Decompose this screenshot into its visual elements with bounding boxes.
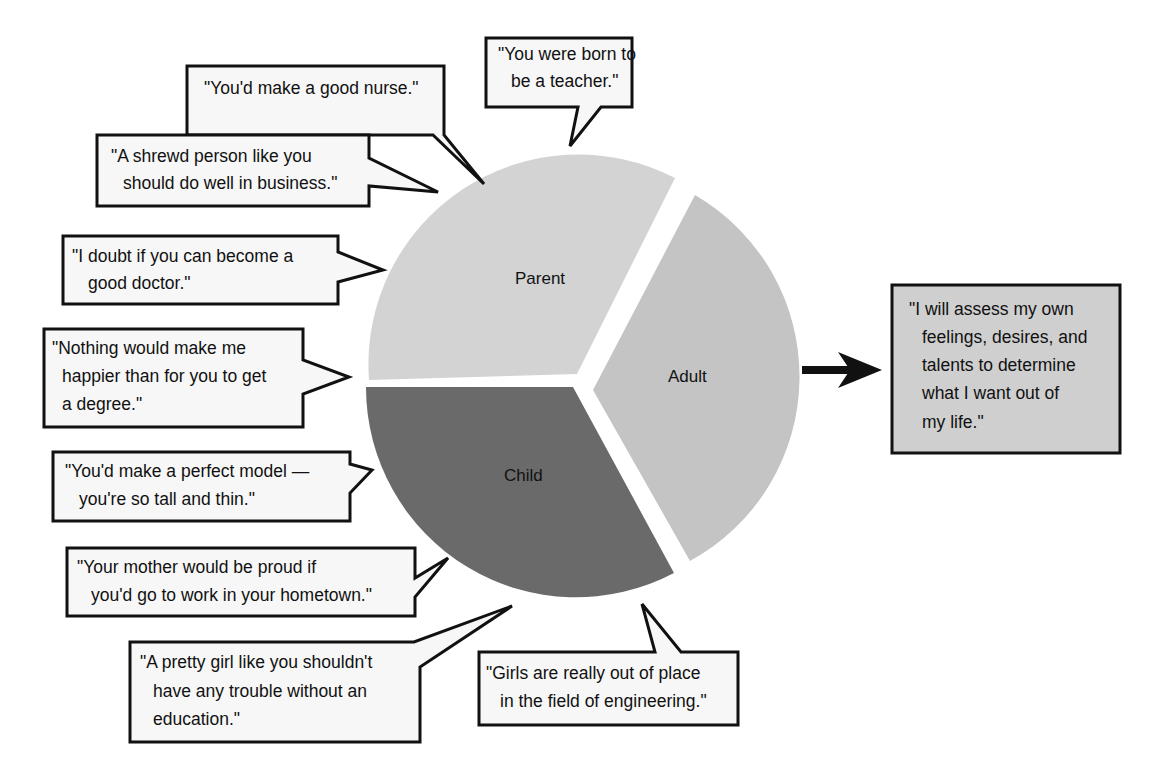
- speech-bubble-business: "A shrewd person like you should do well…: [97, 135, 438, 206]
- bubble-line: happier than for you to get: [62, 366, 266, 386]
- speech-bubble-education: "A pretty girl like you shouldn't have a…: [130, 606, 512, 742]
- output-line: my life.": [922, 412, 984, 432]
- bubble-line: a degree.": [62, 394, 142, 414]
- bubble-line: you're so tall and thin.": [79, 489, 255, 509]
- bubble-line: good doctor.": [88, 273, 191, 293]
- bubble-line: you'd go to work in your hometown.": [91, 585, 372, 605]
- bubble-line: "I doubt if you can become a: [72, 246, 293, 266]
- arrow-right-icon: [802, 352, 882, 388]
- bubble-line: "Nothing would make me: [52, 338, 246, 358]
- bubble-line: "You were born to: [498, 44, 636, 64]
- bubble-line: be a teacher.": [511, 71, 618, 91]
- speech-bubble-teacher: "You were born to be a teacher.": [486, 38, 636, 146]
- slice-label-child: Child: [504, 466, 543, 485]
- output-line: talents to determine: [922, 355, 1076, 375]
- output-line: what I want out of: [921, 383, 1059, 403]
- speech-bubble-doctor: "I doubt if you can become a good doctor…: [63, 236, 383, 304]
- bubble-line: "Your mother would be proud if: [77, 557, 316, 577]
- speech-bubble-degree: "Nothing would make me happier than for …: [44, 329, 349, 427]
- bubble-line: "Girls are really out of place: [486, 663, 700, 683]
- ego-state-pie: Parent Adult Child: [366, 154, 800, 597]
- bubble-line: education.": [153, 709, 240, 729]
- output-line: "I will assess my own: [909, 299, 1074, 319]
- output-line: feelings, desires, and: [922, 327, 1087, 347]
- speech-bubble-hometown: "Your mother would be proud if you'd go …: [67, 548, 448, 616]
- speech-bubble-engineering: "Girls are really out of place in the fi…: [479, 604, 738, 725]
- bubble-line: "You'd make a good nurse.": [204, 78, 419, 98]
- slice-label-parent: Parent: [515, 269, 565, 288]
- speech-bubble-model: "You'd make a perfect model — you're so …: [53, 452, 372, 521]
- adult-output-box: "I will assess my own feelings, desires,…: [892, 285, 1120, 453]
- ego-state-diagram: Parent Adult Child "You'd make a good nu…: [0, 0, 1160, 778]
- bubble-line: "A shrewd person like you: [111, 146, 312, 166]
- bubble-line: in the field of engineering.": [500, 691, 707, 711]
- slice-label-adult: Adult: [668, 367, 707, 386]
- bubble-line: "You'd make a perfect model —: [65, 461, 310, 481]
- bubble-line: "A pretty girl like you shouldn't: [140, 652, 372, 672]
- bubble-line: have any trouble without an: [153, 681, 367, 701]
- bubble-line: should do well in business.": [123, 173, 337, 193]
